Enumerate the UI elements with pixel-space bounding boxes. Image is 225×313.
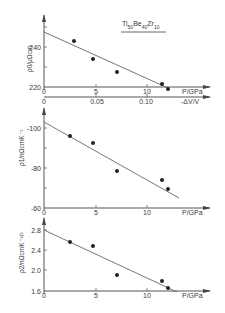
top-ylabel: ρ0/μΩcm [26,46,34,72]
middle-xtick-5: 5 [94,209,98,216]
bottom-ytick-24: 2.4 [31,247,41,254]
top-x2tick-010: 0.10 [139,98,153,105]
data-point [68,134,72,138]
middle-xtick-0: 0 [42,209,46,216]
panel-bottom: 2.8 2.4 2.0 1.6 0 5 10 P/GPa ρ2/nΩcmK⁻³/… [18,218,210,299]
middle-fit-line [44,122,179,198]
top-x2tick-005: 0.05 [90,98,104,105]
data-point [160,82,164,86]
bottom-ytick-16: 1.6 [31,288,41,295]
bottom-xtick-5: 5 [94,292,98,299]
svg-text:Ti50Be40Zr10: Ti50Be40Zr10 [122,20,160,30]
bottom-ytick-20: 2.0 [31,267,41,274]
top-xtick-5: 5 [94,88,98,95]
bottom-xtick-0: 0 [42,292,46,299]
alloy-title: Ti50Be40Zr10 [121,20,166,32]
figure: 240 220 0 5 10 P/GPa 0 0.05 0.10 -ΔV/V ρ… [0,0,225,313]
middle-ytick-80: -80 [31,165,41,172]
top-fit-line [44,32,168,88]
bottom-xlabel: P/GPa [182,292,203,299]
data-point [166,87,170,91]
data-point [115,70,119,74]
data-point [91,57,95,61]
top-xlabel: P/GPa [182,88,203,95]
bottom-fit-line [44,230,177,292]
panel-middle: -100 -80 -60 0 5 10 P/GPa ρ1/nΩcmK⁻¹ [18,108,210,216]
top-xtick-10: 10 [143,88,151,95]
panel-top: 240 220 0 5 10 P/GPa 0 0.05 0.10 -ΔV/V ρ… [26,15,210,105]
middle-ytick-60: -60 [31,205,41,212]
bottom-ytick-28: 2.8 [31,227,41,234]
data-point [68,240,72,244]
data-point [160,279,164,283]
data-point [115,169,119,173]
data-point [115,273,119,277]
middle-xlabel: P/GPa [182,209,203,216]
top-ytick-220: 220 [29,84,41,91]
middle-xtick-10: 10 [143,209,151,216]
data-point [166,187,170,191]
data-point [91,141,95,145]
data-point [160,178,164,182]
bottom-ylabel: ρ2/nΩcmK⁻³/² [18,231,26,273]
top-xtick-0: 0 [42,88,46,95]
middle-ylabel: ρ1/nΩcmK⁻¹ [18,128,26,166]
data-point [72,39,76,43]
middle-ytick-100: -100 [27,125,41,132]
data-point [166,286,170,290]
bottom-xtick-10: 10 [143,292,151,299]
top-x2label: -ΔV/V [181,98,200,105]
data-point [91,244,95,248]
top-x2tick-0: 0 [42,98,46,105]
